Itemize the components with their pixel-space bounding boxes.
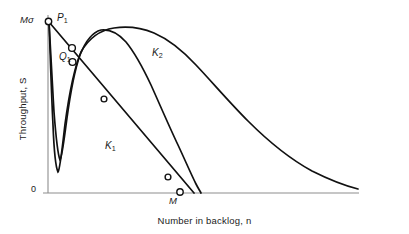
k1-label-subscript: 1	[112, 144, 116, 153]
marker-mid-crossing	[101, 96, 107, 102]
k1-label-base: K	[105, 140, 112, 151]
marker-m-on-axis	[177, 189, 183, 195]
y-axis-title: Throughput, S	[18, 44, 28, 174]
k1-curve-label: K1	[105, 141, 116, 152]
m-axis-label: M	[169, 196, 177, 206]
curve-k2	[49, 22, 358, 189]
chart-plot-area	[0, 0, 409, 234]
k2-label-base: K	[152, 47, 159, 58]
origin-label: 0	[31, 185, 36, 194]
chart-figure: Throughput, S Number in backlog, n 0 Mσ …	[0, 0, 409, 234]
msigma-label: Mσ	[20, 15, 34, 25]
q1-label-subscript: 1	[67, 55, 71, 64]
x-axis-title-text: Number in backlog, n	[158, 215, 252, 226]
p1-label-base: P	[57, 12, 64, 23]
k2-curve-label: K2	[152, 48, 163, 59]
marker-p1	[69, 45, 76, 52]
q1-label: Q1	[59, 52, 71, 63]
p1-label-subscript: 1	[64, 16, 68, 25]
k2-label-subscript: 2	[159, 51, 163, 60]
marker-lower-crossing	[165, 174, 171, 180]
x-axis-title: Number in backlog, n	[0, 216, 409, 226]
marker-msigma	[45, 18, 51, 24]
p1-label: P1	[57, 13, 68, 24]
q1-label-base: Q	[59, 51, 67, 62]
